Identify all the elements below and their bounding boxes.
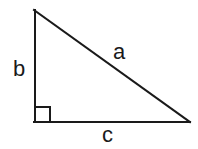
label-horizontal-leg-c: c bbox=[102, 124, 113, 146]
label-hypotenuse-a: a bbox=[113, 41, 125, 63]
triangle-svg bbox=[0, 0, 198, 149]
label-vertical-leg-b: b bbox=[13, 58, 25, 80]
hypotenuse-line bbox=[34, 10, 190, 122]
right-angle-marker-icon bbox=[35, 107, 50, 122]
right-triangle-diagram: a b c bbox=[0, 0, 198, 149]
